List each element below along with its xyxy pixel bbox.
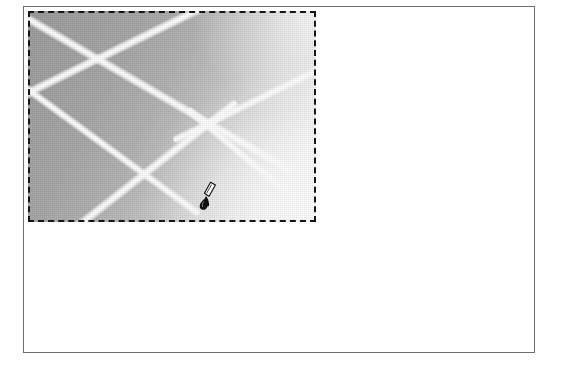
gradient-vignette (28, 11, 316, 222)
selected-image-content (28, 11, 316, 222)
app-root: Image Editor Canvas (0, 0, 565, 370)
marquee-selection[interactable] (28, 11, 316, 222)
document-canvas[interactable] (23, 6, 535, 353)
page-title: Image Editor Canvas (0, 0, 1, 1)
canvas-surface[interactable] (24, 7, 534, 352)
